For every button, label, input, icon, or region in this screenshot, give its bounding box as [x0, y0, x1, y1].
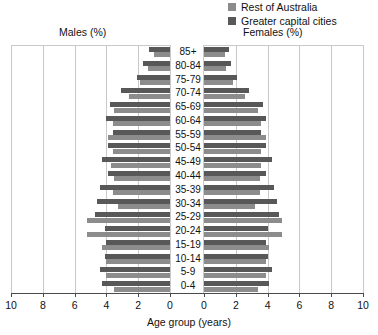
bar-segment	[114, 108, 170, 113]
bar-row	[204, 100, 363, 114]
bar-segment	[204, 254, 268, 259]
plot-area: 85+80-8475-7970-7465-6960-6455-5950-5445…	[11, 45, 363, 293]
bar-segment	[129, 94, 170, 99]
bar-row	[11, 252, 170, 266]
bar-segment	[108, 135, 170, 140]
bar-segment	[105, 226, 170, 231]
bar-segment	[204, 226, 268, 231]
bar-segment	[100, 185, 170, 190]
age-group-label: 30-34	[171, 199, 205, 209]
bar-segment	[204, 143, 266, 148]
bar-segment	[143, 61, 170, 66]
age-group-label: 55-59	[171, 130, 205, 140]
bar-row	[11, 141, 170, 155]
square-swatch-icon	[228, 3, 236, 11]
bar-row	[11, 128, 170, 142]
axis-tick-label: 10	[357, 299, 369, 311]
bar-segment	[204, 149, 261, 154]
bar-row	[204, 279, 363, 293]
bar-segment	[113, 190, 170, 195]
bar-row	[11, 279, 170, 293]
axis-tick	[138, 293, 139, 297]
bar-segment	[204, 185, 274, 190]
bar-segment	[204, 88, 249, 93]
bar-segment	[118, 204, 170, 209]
bar-segment	[204, 199, 277, 204]
bar-segment	[113, 130, 170, 135]
square-swatch-icon	[228, 17, 236, 25]
age-group-label: 5-9	[171, 267, 205, 277]
bar-row	[204, 238, 363, 252]
bar-segment	[204, 121, 261, 126]
axis-tick-label: 2	[135, 299, 141, 311]
females-bars-group	[204, 45, 363, 293]
bar-segment	[113, 121, 170, 126]
bar-segment	[204, 259, 266, 264]
axis-tick-label: 6	[296, 299, 302, 311]
age-group-label: 10-14	[171, 254, 205, 264]
bar-segment	[204, 135, 266, 140]
bar-segment	[102, 245, 170, 250]
bar-segment	[204, 171, 266, 176]
bar-segment	[204, 157, 272, 162]
bar-segment	[108, 143, 170, 148]
bar-segment	[204, 94, 245, 99]
bar-row	[11, 100, 170, 114]
age-group-label: 75-79	[171, 75, 205, 85]
males-bars-group	[11, 45, 170, 293]
axis-tick	[106, 293, 107, 297]
bar-segment	[204, 116, 266, 121]
bar-segment	[140, 80, 170, 85]
bar-row	[204, 45, 363, 59]
bar-segment	[204, 240, 266, 245]
bar-segment	[204, 163, 261, 168]
legend-item-rest-of-australia: Rest of Australia	[228, 1, 337, 13]
bar-segment	[154, 52, 170, 57]
bar-segment	[87, 232, 170, 237]
age-group-label: 80-84	[171, 61, 205, 71]
bar-segment	[149, 47, 170, 52]
bar-segment	[148, 66, 170, 71]
bar-segment	[87, 218, 170, 223]
legend-label: Rest of Australia	[241, 2, 317, 13]
bar-segment	[204, 273, 266, 278]
axis-tick-label: 0	[167, 299, 173, 311]
bar-segment	[106, 273, 170, 278]
age-group-label: 35-39	[171, 185, 205, 195]
x-axis-line	[11, 293, 363, 294]
age-group-label: 20-24	[171, 226, 205, 236]
bar-row	[204, 197, 363, 211]
axis-tick-label: 8	[40, 299, 46, 311]
age-group-label: 40-44	[171, 171, 205, 181]
bar-segment	[106, 259, 170, 264]
bar-segment	[102, 281, 170, 286]
bar-segment	[204, 66, 226, 71]
axis-tick	[331, 293, 332, 297]
bar-segment	[204, 75, 237, 80]
bar-row	[204, 114, 363, 128]
bar-segment	[204, 267, 272, 272]
bar-segment	[121, 88, 170, 93]
axis-tick	[363, 293, 364, 297]
bar-segment	[204, 47, 229, 52]
bar-row	[204, 169, 363, 183]
chart-legend: Rest of Australia Greater capital cities	[228, 1, 337, 29]
bar-row	[11, 238, 170, 252]
bar-segment	[204, 108, 258, 113]
x-axis-title: Age group (years)	[0, 316, 378, 328]
bar-row	[204, 59, 363, 73]
gridline	[363, 45, 364, 293]
bar-segment	[105, 254, 170, 259]
axis-tick-label: 4	[103, 299, 109, 311]
bar-row	[204, 141, 363, 155]
bar-segment	[111, 163, 170, 168]
axis-tick-label: 2	[233, 299, 239, 311]
bar-segment	[204, 204, 255, 209]
bar-row	[204, 128, 363, 142]
bar-row	[11, 114, 170, 128]
bar-segment	[204, 176, 260, 181]
axis-tick	[268, 293, 269, 297]
bar-row	[204, 252, 363, 266]
age-group-label: 60-64	[171, 116, 205, 126]
bar-row	[204, 224, 363, 238]
